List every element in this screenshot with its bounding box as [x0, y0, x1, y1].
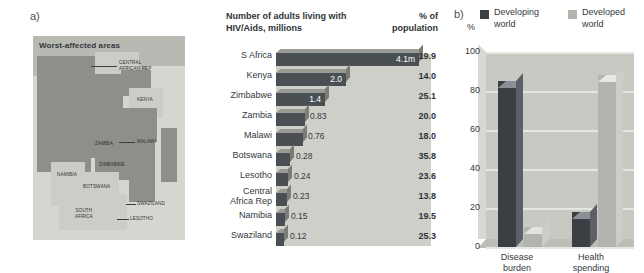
- column-developed-disease-burden: [524, 44, 542, 247]
- panel-a-map: a) Worst-affected areas CENTRAL AFRICAN …: [0, 0, 212, 273]
- y-axis-tick-label: 80: [438, 85, 480, 95]
- hiv-bar: 2.0: [276, 73, 346, 86]
- y-axis-tick-label: 20: [438, 202, 480, 212]
- hiv-bar-side-face: [290, 145, 294, 162]
- hiv-country-label: Malawi: [218, 130, 272, 140]
- map-label-central-african-rep: CENTRAL AFRICAN REP: [119, 60, 152, 71]
- y-axis-tick-label: 40: [438, 163, 480, 173]
- hiv-bar: 1.4: [276, 93, 325, 106]
- hiv-bar-value: 0.24: [294, 171, 311, 181]
- hiv-bar-value: 0.23: [293, 191, 310, 201]
- legend-swatch-icon: [568, 10, 577, 19]
- map-label-botswana: BOTSWANA: [83, 184, 110, 190]
- y-axis-unit-label: %: [467, 22, 475, 32]
- map-region-south-africa: [59, 194, 127, 230]
- panel-c-letter: b): [454, 8, 464, 20]
- y-axis-tick-label: 0: [438, 241, 480, 251]
- map-label-kenya: KENYA: [137, 97, 153, 103]
- legend-label: Developed world: [582, 7, 625, 30]
- hiv-bar-side-face: [287, 185, 291, 202]
- column-side-face: [516, 73, 523, 247]
- map-region-madagascar: [161, 128, 177, 182]
- hiv-bar: [276, 133, 303, 146]
- hiv-percent-value: 25.3: [384, 231, 436, 241]
- hiv-country-label: S Africa: [218, 50, 272, 60]
- hiv-chart-title: Number of adults living with HIV/Aids, m…: [226, 10, 376, 34]
- map-label-zimbabwe: ZIMBABWE: [99, 162, 125, 168]
- hiv-country-label: Zimbabwe: [218, 90, 272, 100]
- leader-line-malawi: [119, 142, 135, 143]
- hiv-percent-value: 35.8: [384, 151, 436, 161]
- legend-swatch-icon: [480, 10, 489, 19]
- column-developing-disease-burden: [498, 44, 516, 247]
- column-chart-plot: 100 80 60 40 20 0 Disease burden He: [454, 44, 640, 273]
- hiv-percent-value: 19.5: [384, 211, 436, 221]
- hiv-bar-plot: S Africa 4.1m 19.9 Kenya 2.0 14.0 Zimbab…: [218, 50, 440, 250]
- hiv-percent-value: 18.0: [384, 131, 436, 141]
- panel-c-burden-chart: b) Developing world Developed world % 10…: [440, 0, 644, 273]
- hiv-bar: [276, 153, 290, 166]
- table-row: S Africa 4.1m 19.9: [218, 50, 440, 68]
- column-front-face: [598, 75, 616, 247]
- hiv-bar-side-face: [325, 85, 329, 102]
- table-row: Zambia 0.83 20.0: [218, 110, 440, 128]
- hiv-percent-value: 19.9: [384, 51, 436, 61]
- leader-line-car: [91, 66, 117, 67]
- table-row: Malawi 0.76 18.0: [218, 130, 440, 148]
- hiv-percent-header: % of population: [382, 10, 438, 34]
- hiv-percent-value: 20.0: [384, 111, 436, 121]
- map-figure: Worst-affected areas CENTRAL AFRICAN REP…: [33, 36, 185, 240]
- hiv-country-label: Central Africa Rep: [218, 186, 272, 207]
- table-row: Namibia 0.15 19.5: [218, 210, 440, 228]
- hiv-bar-side-face: [288, 165, 292, 182]
- hiv-bar: [276, 213, 285, 226]
- hiv-percent-value: 23.6: [384, 171, 436, 181]
- hiv-country-label: Namibia: [218, 210, 272, 220]
- hiv-country-label: Lesotho: [218, 170, 272, 180]
- hiv-bar-side-face: [285, 205, 289, 222]
- gridline-0: [486, 247, 634, 249]
- hiv-bar-value: 1.4: [309, 94, 321, 104]
- y-axis-tick-label: 100: [438, 46, 480, 56]
- hiv-bar-value: 0.76: [308, 131, 325, 141]
- column-developed-health-spending: [598, 44, 616, 247]
- map-title: Worst-affected areas: [39, 41, 120, 50]
- hiv-country-label: Zambia: [218, 110, 272, 120]
- leader-line-swaziland: [126, 204, 136, 205]
- legend-label: Developing world: [494, 7, 539, 30]
- column-side-face: [616, 67, 623, 247]
- map-label-lesotho: LESOTHO: [130, 216, 153, 222]
- chart-legend: Developing world Developed world: [480, 8, 644, 38]
- hiv-bar: [276, 193, 287, 206]
- hiv-bar-side-face: [346, 65, 350, 82]
- y-axis-tick-label: 60: [438, 124, 480, 134]
- map-label-zambia: ZAMBIA: [95, 141, 113, 147]
- hiv-bar-side-face: [303, 125, 307, 142]
- hiv-percent-value: 14.0: [384, 71, 436, 81]
- table-row: Kenya 2.0 14.0: [218, 70, 440, 88]
- hiv-bar-value: 0.15: [291, 211, 308, 221]
- hiv-bar-value: 0.83: [310, 111, 327, 121]
- map-region-mozambique: [129, 140, 155, 202]
- table-row: Central Africa Rep 0.23 13.8: [218, 190, 440, 208]
- map-label-south-africa: SOUTH AFRICA: [75, 208, 93, 219]
- hiv-bar-side-face: [284, 225, 288, 242]
- table-row: Zimbabwe 1.4 25.1: [218, 90, 440, 108]
- column-front-face: [498, 81, 516, 247]
- hiv-country-label: Swaziland: [218, 230, 272, 240]
- table-row: Botswana 0.28 35.8: [218, 150, 440, 168]
- map-label-malawi: MALAWI: [137, 139, 156, 145]
- panel-a-letter: a): [30, 10, 40, 22]
- hiv-bar-top-face: [276, 69, 350, 73]
- leader-line-lesotho: [117, 219, 129, 220]
- hiv-percent-value: 25.1: [384, 91, 436, 101]
- hiv-bar: [276, 173, 288, 186]
- hiv-bar-value: 0.28: [296, 151, 313, 161]
- hiv-bar-side-face: [305, 105, 309, 122]
- panel-b-hiv-table: Number of adults living with HIV/Aids, m…: [212, 0, 440, 273]
- x-axis-label-disease-burden: Disease burden: [482, 252, 552, 273]
- map-label-namibia: NAMIBIA: [57, 172, 77, 178]
- hiv-bar: [276, 113, 305, 126]
- hiv-bar-top-face: [276, 89, 329, 93]
- map-label-swaziland: SWAZILAND: [137, 201, 165, 207]
